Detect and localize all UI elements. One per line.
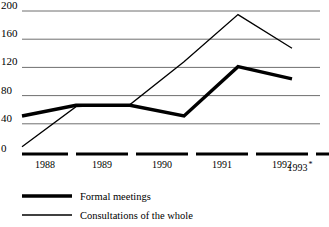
- chart-canvas: [0, 0, 329, 227]
- legend-swatches: [22, 196, 72, 215]
- line-chart: 200 160 120 80 40 0 1988 1989 1990 1991 …: [0, 0, 329, 227]
- footnote-asterisk: *: [309, 160, 313, 169]
- x-tick-label-1988: 1988: [20, 160, 70, 170]
- x-tick-label-1990: 1990: [137, 160, 187, 170]
- x-tick-label-1989: 1989: [77, 160, 127, 170]
- y-tick-label-160: 160: [1, 28, 18, 39]
- plot-area: 200 160 120 80 40 0 1988 1989 1990 1991 …: [0, 0, 329, 227]
- x-tick-label-1991: 1991: [197, 160, 247, 170]
- y-tick-label-80: 80: [1, 85, 12, 96]
- y-tick-label-120: 120: [1, 56, 18, 67]
- legend-label-formal-meetings: Formal meetings: [80, 191, 151, 202]
- y-tick-label-0: 0: [1, 143, 7, 154]
- legend-label-consultations-of-the-whole: Consultations of the whole: [80, 210, 193, 221]
- x-tick-label-1993: 1993*: [275, 160, 325, 173]
- series-line-consultations-of-the-whole: [22, 15, 292, 147]
- y-tick-label-200: 200: [1, 0, 18, 11]
- series-line-formal-meetings: [22, 67, 292, 116]
- x-tick-label-1993-text: 1993: [288, 162, 308, 173]
- y-tick-label-40: 40: [1, 113, 12, 124]
